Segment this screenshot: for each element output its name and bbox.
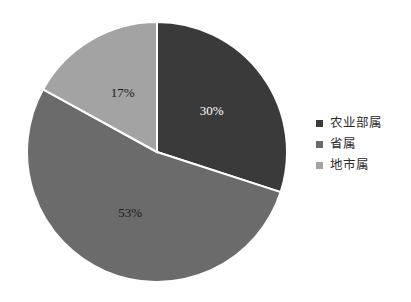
chart-legend: 农业部属 省属 地市属 (316, 113, 408, 176)
pie-slice-label-1: 53% (118, 205, 142, 220)
legend-label-2: 地市属 (330, 159, 369, 172)
pie-slice-label-0: 30% (200, 103, 224, 118)
legend-item-2[interactable]: 地市属 (316, 155, 408, 176)
legend-swatch-icon-2 (316, 162, 323, 169)
chart-page: 30%53%17% 农业部属 省属 地市属 (0, 0, 411, 302)
pie-chart-area: 30%53%17% (27, 22, 287, 282)
legend-label-1: 省属 (330, 138, 356, 151)
legend-label-0: 农业部属 (330, 117, 382, 130)
legend-swatch-icon-1 (316, 141, 323, 148)
pie-slice-group (27, 22, 287, 282)
legend-item-1[interactable]: 省属 (316, 134, 408, 155)
pie-slice-label-2: 17% (111, 85, 135, 100)
legend-item-0[interactable]: 农业部属 (316, 113, 408, 134)
legend-swatch-icon-0 (316, 120, 323, 127)
pie-chart-svg: 30%53%17% (27, 22, 287, 282)
